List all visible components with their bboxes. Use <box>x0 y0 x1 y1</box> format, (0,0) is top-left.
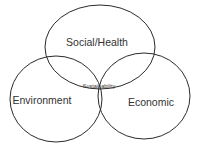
sustainability-label: Sustainability <box>83 83 116 89</box>
environment-label: Environment <box>13 94 72 106</box>
venn-diagram: Social/Health Environment Economic Susta… <box>0 0 199 150</box>
social-health-label: Social/Health <box>66 36 128 48</box>
economic-label: Economic <box>128 96 174 108</box>
